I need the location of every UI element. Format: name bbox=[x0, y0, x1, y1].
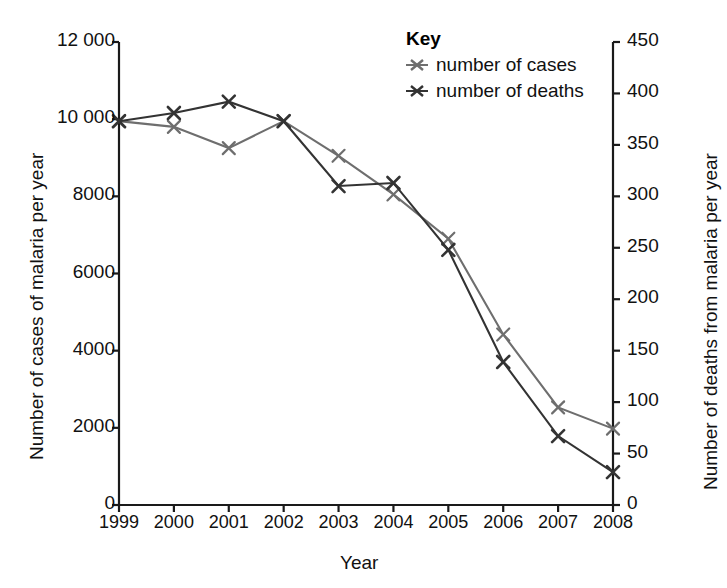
y-right-tick-label: 100 bbox=[627, 389, 659, 411]
y-left-tick-label: 6000 bbox=[73, 261, 115, 283]
y-right-tick-label: 350 bbox=[627, 132, 659, 154]
y-right-tick-label: 0 bbox=[627, 492, 638, 514]
malaria-chart: 0200040006000800010 00012 00005010015020… bbox=[0, 0, 727, 588]
asterisk-marker-icon bbox=[406, 57, 428, 73]
x-tick-label: 2007 bbox=[528, 512, 588, 533]
y-right-tick-label: 50 bbox=[627, 441, 648, 463]
x-tick-label: 2004 bbox=[363, 512, 423, 533]
y-axis-left-title: Number of cases of malaria per year bbox=[26, 153, 48, 460]
x-tick-label: 2005 bbox=[418, 512, 478, 533]
data-series-layer bbox=[113, 96, 619, 478]
x-tick-label: 2008 bbox=[583, 512, 643, 533]
y-right-tick-label: 200 bbox=[627, 286, 659, 308]
x-tick-label: 2002 bbox=[254, 512, 314, 533]
legend-item-label: number of cases bbox=[436, 54, 576, 76]
x-tick-label: 2000 bbox=[144, 512, 204, 533]
y-right-tick-label: 400 bbox=[627, 80, 659, 102]
x-tick-label: 2001 bbox=[199, 512, 259, 533]
asterisk-marker-icon bbox=[406, 83, 428, 99]
y-left-tick-label: 0 bbox=[104, 492, 115, 514]
x-axis-title: Year bbox=[340, 552, 378, 574]
legend-item: number of deaths bbox=[406, 78, 616, 104]
y-left-tick-label: 12 000 bbox=[57, 29, 115, 51]
y-left-tick-label: 2000 bbox=[73, 415, 115, 437]
y-right-tick-label: 300 bbox=[627, 183, 659, 205]
y-right-tick-label: 250 bbox=[627, 235, 659, 257]
x-tick-label: 1999 bbox=[89, 512, 149, 533]
y-left-tick-label: 10 000 bbox=[57, 106, 115, 128]
axis-lines bbox=[112, 42, 620, 512]
legend: Key number of casesnumber of deaths bbox=[406, 28, 616, 104]
y-right-tick-label: 450 bbox=[627, 29, 659, 51]
legend-item: number of cases bbox=[406, 52, 616, 78]
y-axis-right-title: Number of deaths from malaria per year bbox=[700, 153, 722, 490]
x-tick-label: 2006 bbox=[473, 512, 533, 533]
legend-item-label: number of deaths bbox=[436, 80, 584, 102]
y-left-tick-label: 4000 bbox=[73, 338, 115, 360]
y-right-tick-label: 150 bbox=[627, 338, 659, 360]
legend-title: Key bbox=[406, 28, 616, 50]
legend-rows: number of casesnumber of deaths bbox=[406, 52, 616, 104]
y-left-tick-label: 8000 bbox=[73, 183, 115, 205]
x-tick-label: 2003 bbox=[309, 512, 369, 533]
